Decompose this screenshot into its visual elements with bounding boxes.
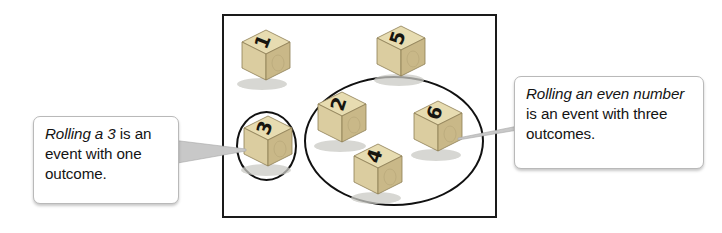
callout-rolling-an-even-number: Rolling an even number is an event with … — [514, 76, 704, 169]
leader-line-right — [452, 108, 522, 148]
leader-line-left — [172, 132, 252, 172]
die-5: 5 — [367, 18, 441, 92]
die-1: 1 — [232, 22, 306, 96]
callout-right-rest: is an event with three outcomes. — [526, 105, 667, 142]
figure-canvas: 1 5 3 2 — [0, 0, 722, 233]
callout-left-emphasis: Rolling a 3 — [45, 125, 116, 142]
callout-rolling-a-3: Rolling a 3 is an event with one outcome… — [33, 116, 179, 204]
callout-right-emphasis: Rolling an even number — [526, 85, 684, 102]
die-4: 4 — [344, 136, 418, 210]
